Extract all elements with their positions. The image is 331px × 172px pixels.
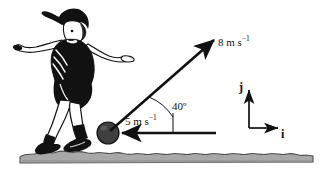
label-outgoing-speed-text: 8 m s xyxy=(218,36,242,48)
ground-shadow xyxy=(22,160,312,163)
label-incoming-speed-exponent: −1 xyxy=(149,113,157,122)
player-right-hand xyxy=(121,56,134,62)
label-angle: 40º xyxy=(172,101,186,112)
label-outgoing-speed: 8 m s−1 xyxy=(218,35,250,48)
label-incoming-speed-text: 5 m s xyxy=(125,115,149,127)
physics-diagram-figure: 8 m s−1 5 m s−1 40º j i xyxy=(0,0,331,172)
label-outgoing-speed-exponent: −1 xyxy=(242,34,250,43)
diagram-canvas xyxy=(0,0,331,172)
label-axis-i: i xyxy=(281,128,284,140)
player-eye xyxy=(71,30,74,33)
soccer-ball-highlight xyxy=(100,125,107,130)
unit-vector-axes xyxy=(249,90,278,128)
player-kicking-sock xyxy=(73,124,88,141)
label-axis-j: j xyxy=(239,81,243,93)
ground-group xyxy=(20,151,313,163)
label-incoming-speed: 5 m s−1 xyxy=(125,114,157,127)
